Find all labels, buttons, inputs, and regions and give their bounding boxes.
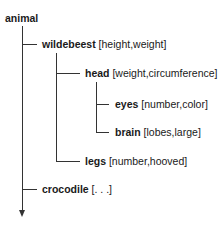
node-name: crocodile <box>42 183 89 195</box>
node-eyes: eyes [number,color] <box>115 98 208 110</box>
node-crocodile: crocodile [. . .] <box>42 183 112 195</box>
node-name: brain <box>115 126 141 138</box>
node-brain: brain [lobes,large] <box>115 126 201 138</box>
node-legs: legs [number,hooved] <box>85 155 187 167</box>
node-wildebeest: wildebeest [height,weight] <box>42 38 166 50</box>
node-name: eyes <box>115 98 138 110</box>
node-attrs: [height,weight] <box>99 38 167 50</box>
connector-wildebeest <box>22 44 37 45</box>
node-name: animal <box>5 12 38 24</box>
node-attrs: [. . .] <box>92 183 112 195</box>
node-name: legs <box>85 155 106 167</box>
branch-line-head <box>96 82 97 132</box>
trunk-line <box>22 26 23 211</box>
branch-line-wildebeest <box>56 53 57 161</box>
node-attrs: [number,hooved] <box>109 155 187 167</box>
node-attrs: [weight,circumference] <box>112 67 217 79</box>
connector-brain <box>96 132 109 133</box>
node-attrs: [number,color] <box>141 98 208 110</box>
node-animal: animal <box>5 12 38 24</box>
connector-eyes <box>96 104 109 105</box>
connector-head <box>56 73 80 74</box>
node-attrs: [lobes,large] <box>144 126 201 138</box>
node-head: head [weight,circumference] <box>85 67 217 79</box>
connector-legs <box>56 161 80 162</box>
arrow-down-icon <box>19 210 25 217</box>
node-name: head <box>85 67 110 79</box>
node-name: wildebeest <box>42 38 96 50</box>
connector-crocodile <box>22 189 37 190</box>
